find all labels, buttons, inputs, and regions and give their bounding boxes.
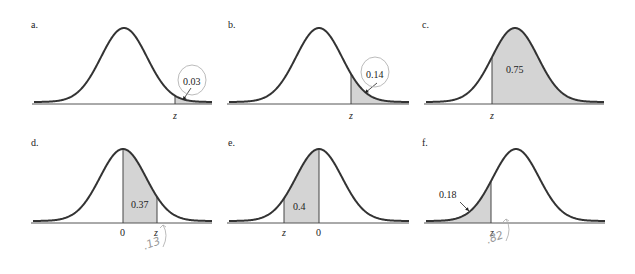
z-label: z <box>349 110 353 121</box>
normal-curve-plot <box>0 137 212 274</box>
normal-curve <box>34 28 212 102</box>
area-label: 0.14 <box>366 69 384 80</box>
z-label: z <box>282 227 286 238</box>
panel-label: f. <box>422 137 428 148</box>
panel-b: b. 0.14 z <box>212 0 424 137</box>
normal-curve-plot <box>212 0 424 137</box>
area-label: 0.03 <box>183 76 201 87</box>
area-label: 0.4 <box>293 201 306 212</box>
panel-d: d. 0.37 z 0 .13 <box>0 137 212 274</box>
panel-label: a. <box>31 19 38 30</box>
panel-label: b. <box>228 19 236 30</box>
panel-c: c. 0.75 z <box>424 0 635 137</box>
area-label: 0.75 <box>506 64 524 75</box>
area-label: 0.37 <box>131 199 149 210</box>
panel-f: f. 0.18 z .82 <box>424 137 635 274</box>
panel-label: c. <box>422 19 429 30</box>
normal-curve <box>229 28 409 102</box>
panel-label: d. <box>31 137 39 148</box>
area-label: 0.18 <box>439 189 457 200</box>
normal-curve <box>426 149 605 221</box>
zero-label: 0 <box>316 227 321 238</box>
panel-label: e. <box>228 137 235 148</box>
panel-a: a. 0.03 z <box>0 0 212 137</box>
normal-curve-plot <box>424 137 635 274</box>
shaded-area <box>426 181 491 223</box>
normal-curve-plot <box>212 137 424 274</box>
zero-label: 0 <box>120 227 125 238</box>
panel-e: e. 0.4 z 0 <box>212 137 424 274</box>
normal-curve-plot <box>424 0 635 137</box>
shaded-area <box>123 149 157 223</box>
z-label: z <box>173 110 177 121</box>
z-label: z <box>490 110 494 121</box>
